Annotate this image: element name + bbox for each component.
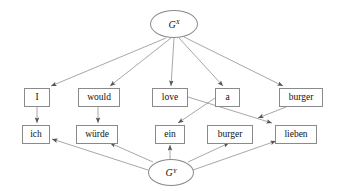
edge-gy-to-wuerde [110, 143, 153, 162]
edge-gx-to-would [110, 38, 171, 86]
node-label: G [166, 167, 173, 178]
node-label: I [35, 93, 38, 103]
node-love[interactable]: love [152, 88, 188, 107]
node-superscript: Y [173, 167, 177, 174]
node-gx[interactable]: GX [150, 10, 198, 38]
node-label: burger [289, 93, 314, 103]
node-label: love [162, 93, 178, 103]
node-ich[interactable]: ich [22, 125, 50, 144]
node-wuerde[interactable]: würde [76, 125, 118, 144]
node-lieben[interactable]: lieben [275, 125, 317, 144]
node-burger_de[interactable]: burger [207, 125, 253, 144]
node-label: G [168, 19, 175, 30]
node-label: burger [218, 130, 243, 140]
edge-gy-to-burger_de [188, 143, 229, 162]
node-gy[interactable]: GY [148, 159, 194, 186]
edge-burger_en-to-burger_de [258, 107, 286, 118]
node-label: ein [164, 130, 176, 140]
graph-diagram: GXIwouldloveaburgerichwürdeeinburgerlieb… [0, 0, 345, 191]
node-label: lieben [284, 130, 307, 140]
node-would[interactable]: would [78, 88, 120, 107]
edge-gx-to-burger_en [184, 37, 283, 86]
node-label: would [87, 93, 111, 103]
edge-gx-to-love [171, 38, 174, 86]
edge-gy-to-lieben [193, 141, 276, 170]
node-label: würde [85, 130, 109, 140]
node-ein[interactable]: ein [155, 125, 185, 144]
node-superscript: X [176, 18, 180, 25]
node-label: a [225, 93, 229, 103]
node-burger_en[interactable]: burger [279, 88, 323, 107]
edge-gx-to-i [51, 38, 166, 86]
node-label: ich [30, 130, 42, 140]
node-a[interactable]: a [215, 88, 240, 107]
node-i[interactable]: I [24, 88, 50, 107]
